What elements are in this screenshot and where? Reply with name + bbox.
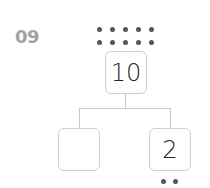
connector-horizontal <box>79 108 171 109</box>
connector-left <box>79 108 80 128</box>
whole-box: 10 <box>105 51 147 94</box>
right-part-value: 2 <box>162 136 177 164</box>
whole-value: 10 <box>111 59 142 87</box>
dot <box>149 40 154 45</box>
problem-number: 09 <box>15 26 39 47</box>
right-part-box: 2 <box>149 128 191 171</box>
connector-right <box>170 108 171 128</box>
dot <box>123 40 128 45</box>
dot <box>110 27 115 32</box>
dot <box>97 40 102 45</box>
dot <box>110 40 115 45</box>
dot <box>123 27 128 32</box>
dot <box>136 27 141 32</box>
dot <box>173 179 178 184</box>
dot <box>97 27 102 32</box>
dot <box>136 40 141 45</box>
dot <box>149 27 154 32</box>
dot <box>161 179 166 184</box>
left-part-box[interactable] <box>58 128 100 171</box>
connector-vertical <box>125 94 126 108</box>
